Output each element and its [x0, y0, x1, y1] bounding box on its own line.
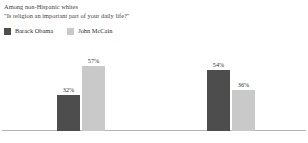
- legend-item-john-mccain: John McCain: [67, 27, 112, 35]
- bar-yes-john-mccain: 57%: [82, 40, 105, 131]
- bar-rect: [57, 95, 80, 131]
- category-label-no: No: [202, 141, 262, 143]
- bar-rect: [82, 66, 105, 131]
- bar-value-label: 32%: [63, 86, 74, 94]
- bar-group-no: 54% 36%: [207, 40, 257, 131]
- bar-rect: [232, 90, 255, 131]
- bar-no-john-mccain: 36%: [232, 40, 255, 131]
- category-label-yes: Yes: [52, 141, 112, 143]
- chart-question-line: "Is religion an important part of your d…: [4, 11, 304, 20]
- legend-item-barack-obama: Barack Obama: [4, 27, 53, 35]
- bar-value-label: 36%: [238, 81, 249, 89]
- bar-rect: [207, 70, 230, 131]
- chart-legend: Barack Obama John McCain: [4, 27, 112, 35]
- bar-no-barack-obama: 54%: [207, 40, 230, 131]
- legend-swatch-john-mccain: [67, 28, 74, 35]
- legend-label-barack-obama: Barack Obama: [15, 27, 53, 35]
- chart-plot-area: 32% 57% 54% 36% Yes: [0, 40, 308, 143]
- chart-header: Among non-Hispanic whites "Is religion a…: [4, 2, 304, 20]
- legend-swatch-barack-obama: [4, 28, 11, 35]
- chart-subtitle-line-1: Among non-Hispanic whites: [4, 2, 304, 11]
- category-axis-line: [2, 130, 306, 131]
- bar-chart: Among non-Hispanic whites "Is religion a…: [0, 0, 308, 143]
- bar-yes-barack-obama: 32%: [57, 40, 80, 131]
- bar-group-yes: 32% 57%: [57, 40, 107, 131]
- bar-value-label: 54%: [213, 61, 224, 69]
- legend-label-john-mccain: John McCain: [78, 27, 112, 35]
- bar-value-label: 57%: [88, 57, 99, 65]
